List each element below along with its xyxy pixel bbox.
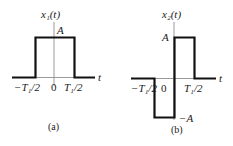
x-axis-label: t [219, 72, 223, 84]
caption-a: (a) [48, 121, 59, 133]
figure: x₁(t) A t −T₁/2 0 T₁/2 (a) x₂(t) A −A t … [0, 0, 233, 146]
neg-amplitude-label: −A [179, 112, 193, 124]
tick-half-period: T₁/2 [184, 82, 203, 94]
amplitude-label: A [56, 24, 64, 36]
amplitude-label: A [161, 31, 169, 43]
caption-b: (b) [171, 124, 183, 136]
tick-zero: 0 [161, 82, 167, 94]
y-axis-label: x₁(t) [40, 8, 60, 21]
tick-half-period: T₁/2 [64, 81, 83, 93]
tick-neg-half-period: −T₁/2 [14, 81, 40, 93]
x-axis-label: t [98, 71, 102, 83]
signal-x2 [131, 38, 216, 118]
tick-zero: 0 [51, 81, 57, 93]
panel-b: x₂(t) A −A t −T₁/2 0 T₁/2 (b) [131, 8, 223, 136]
panel-a: x₁(t) A t −T₁/2 0 T₁/2 (a) [12, 8, 102, 133]
y-axis-label: x₂(t) [161, 8, 181, 21]
tick-neg-half-period: −T₁/2 [131, 82, 157, 94]
